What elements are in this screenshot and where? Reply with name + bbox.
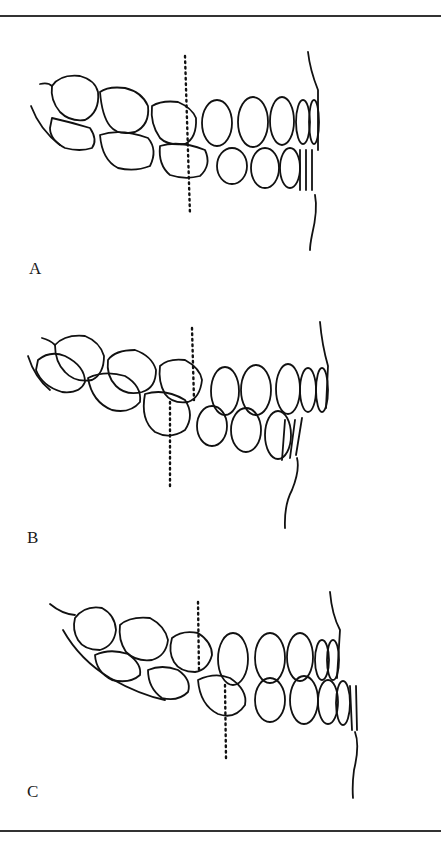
panel-b: B [0,290,441,560]
panel-c: C [0,560,441,830]
panel-label-a: A [29,259,41,279]
panel-a: A [0,0,441,290]
teeth-illustration-c [0,560,441,830]
panel-label-b: B [27,528,38,548]
teeth-illustration-a [0,0,441,290]
bottom-border-rule [0,830,441,832]
panel-label-c: C [27,782,38,802]
teeth-illustration-b [0,290,441,560]
